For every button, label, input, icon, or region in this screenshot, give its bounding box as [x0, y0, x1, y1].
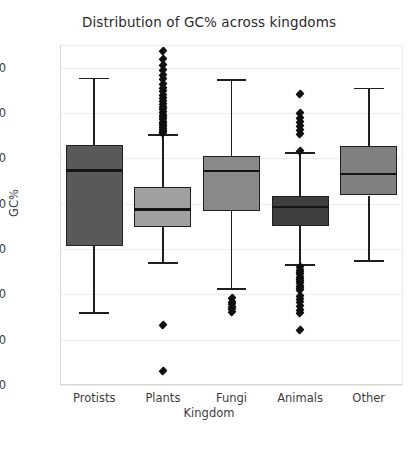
y-axis-label: GC%: [7, 189, 21, 217]
y-tick-label: 20: [0, 287, 6, 301]
y-tick-label: 30: [0, 242, 6, 256]
plot-area: [60, 45, 403, 385]
x-tick-label: Other: [352, 391, 385, 405]
box-plot-figure: Distribution of GC% across kingdoms 0102…: [0, 0, 418, 450]
cap-upper: [354, 88, 384, 90]
x-axis-label: Kingdom: [0, 406, 418, 420]
y-tick-label: 40: [0, 197, 6, 211]
gridline: [60, 385, 403, 386]
box-iqr: [340, 146, 397, 196]
chart-title: Distribution of GC% across kingdoms: [0, 14, 418, 30]
y-tick-label: 70: [0, 61, 6, 75]
x-tick-label: Fungi: [216, 391, 247, 405]
y-tick-label: 60: [0, 106, 6, 120]
box-plot-other: [60, 45, 403, 385]
x-tick-label: Protists: [73, 391, 115, 405]
y-tick-label: 10: [0, 333, 6, 347]
cap-lower: [354, 260, 384, 262]
whisker-upper: [368, 89, 370, 146]
whisker-lower: [368, 196, 370, 262]
median-line: [340, 173, 397, 175]
y-tick-label: 0: [0, 378, 6, 392]
x-tick-label: Animals: [277, 391, 323, 405]
x-tick-label: Plants: [145, 391, 180, 405]
y-tick-label: 50: [0, 151, 6, 165]
